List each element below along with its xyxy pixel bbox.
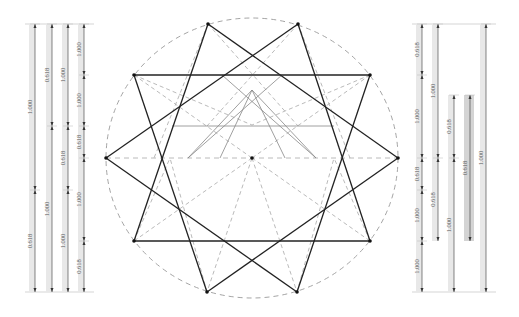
dimension-label: 0.618 [413,167,420,182]
dimension-label: 1.000 [75,192,82,207]
vertex-point [296,22,300,26]
dimension-label: 0.618 [75,259,82,274]
dimension-label: 0.618 [75,135,82,150]
vertex-points [104,22,400,294]
star-edge [106,24,298,158]
vertex-point [132,239,136,243]
dimension-label: 1.000 [59,68,66,83]
inner-line [222,75,316,158]
inner-line [252,90,285,158]
vertex-point [205,290,209,294]
dimension-label: 1.000 [75,42,82,57]
vertex-point [368,73,372,77]
construction-line [252,158,297,292]
vertex-point [132,73,136,77]
inner-line [188,75,282,158]
star-edge [134,75,207,292]
dimension-label: 1.000 [413,208,420,223]
dimension-label: 1.000 [26,100,33,115]
dimension-label: 0.618 [445,119,452,134]
right-dimension-columns: 0.6181.0000.6181.0001.0001.0000.6180.618… [412,24,496,292]
star-edge [298,24,370,241]
dimension-label: 0.618 [461,161,468,176]
dimension-label: 0.618 [413,42,420,57]
star-edge [208,24,398,158]
inner-line [220,90,252,158]
dimension-label: 1.000 [477,151,484,166]
dimension-label: 1.000 [413,259,420,274]
construction-line [298,24,350,158]
inner-line [188,90,252,158]
dimension-label: 1.000 [43,202,50,217]
dimension-label: 1.000 [75,93,82,108]
dimension-label: 1.000 [413,109,420,124]
dimension-label: 1.000 [445,218,452,233]
construction-line [207,158,252,292]
vertex-point [206,22,210,26]
construction-line [252,75,370,158]
center-point [250,156,254,160]
dimension-label: 0.618 [59,151,66,166]
dimension-label: 1.000 [59,234,66,249]
vertex-point [104,156,108,160]
star-edge [207,158,398,292]
star-edge [297,75,370,292]
vertex-point [295,290,299,294]
construction-line [154,24,208,158]
star-edge [106,158,297,292]
construction-line [134,75,252,158]
vertex-point [396,156,400,160]
star-edge [134,24,208,241]
decagram-golden-ratio-diagram: 1.0000.6180.6181.0001.0000.6181.0001.000… [0,0,519,317]
left-dimension-columns: 1.0000.6180.6181.0001.0000.6181.0001.000… [25,24,94,292]
vertex-point [368,239,372,243]
dimension-label: 0.618 [26,234,33,249]
dimension-label: 0.618 [429,192,436,207]
dimension-label: 1.000 [429,84,436,99]
inner-line [252,90,316,158]
inner-star-lines [172,75,334,158]
dimension-label: 0.618 [43,68,50,83]
